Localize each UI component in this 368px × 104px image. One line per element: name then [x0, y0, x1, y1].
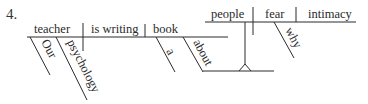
word-why: why [282, 25, 305, 51]
word-intimacy: intimacy [308, 7, 352, 21]
word-teacher: teacher [34, 22, 71, 36]
word-our: Our [38, 37, 60, 61]
word-book: book [153, 22, 179, 36]
word-about: about [190, 37, 216, 69]
word-is-writing: is writing [91, 22, 139, 36]
word-a: a [163, 46, 178, 58]
sentence-diagram: 4. teacher is writing book Our psycholog… [0, 0, 368, 104]
word-fear: fear [265, 7, 285, 21]
exercise-number: 4. [6, 6, 17, 22]
word-people: people [211, 7, 245, 21]
clause-pedestal [239, 64, 251, 71]
